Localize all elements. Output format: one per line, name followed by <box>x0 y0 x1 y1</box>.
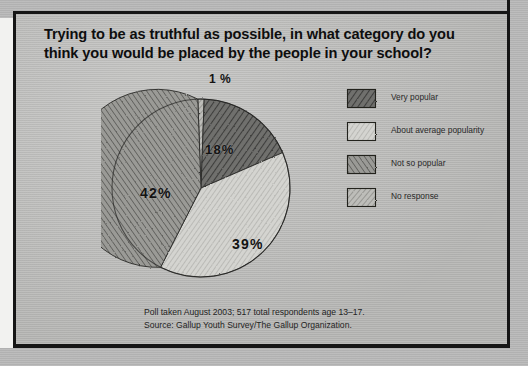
legend-swatch-icon <box>346 154 377 175</box>
legend-item-no-response: No response <box>346 187 506 214</box>
legend-item-about-average-popularity: About average popularity <box>346 121 506 148</box>
footnote-line-1: Poll taken August 2003; 517 total respon… <box>144 306 474 319</box>
footnote-line-2: Source: Gallup Youth Survey/The Gallup O… <box>144 319 474 332</box>
legend-item-not-so-popular: Not so popular <box>346 154 506 181</box>
legend-swatch-icon <box>346 121 377 142</box>
pie-chart <box>101 88 301 288</box>
legend-swatch-icon <box>346 187 377 208</box>
slice-label-not-so-popular: 42% <box>140 185 172 201</box>
chart-legend: Very popular About average popularity <box>346 88 506 220</box>
pie-chart-svg <box>101 88 301 288</box>
title-line-1: Trying to be as truthful as possible, in… <box>44 25 474 44</box>
top-border-rule-corner <box>507 0 510 14</box>
title-line-2: think you would be placed by the people … <box>44 44 474 63</box>
slice-label-no-response: 1 % <box>209 72 231 86</box>
legend-label: About average popularity <box>391 125 484 135</box>
page-title: Trying to be as truthful as possible, in… <box>44 25 474 64</box>
page-gutter <box>0 18 13 348</box>
figure-container: Trying to be as truthful as possible, in… <box>13 14 510 348</box>
legend-swatch-icon <box>346 88 377 109</box>
slice-label-about-average: 39% <box>232 236 264 252</box>
legend-label: No response <box>391 191 439 201</box>
legend-label: Very popular <box>391 92 438 102</box>
chart-footnote: Poll taken August 2003; 517 total respon… <box>144 306 474 332</box>
legend-label: Not so popular <box>391 158 445 168</box>
legend-item-very-popular: Very popular <box>346 88 506 115</box>
slice-label-very-popular: 18% <box>205 142 235 157</box>
